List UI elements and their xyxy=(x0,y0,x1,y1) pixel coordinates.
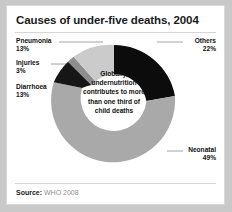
center-line-4: than one third of xyxy=(88,98,140,105)
source-label: Source: xyxy=(16,189,42,196)
label-diarrhoea-name: Diarrhoea xyxy=(16,83,47,90)
label-diarrhoea: Diarrhoea 13% xyxy=(16,83,47,100)
label-injuries: Injuries 3% xyxy=(16,59,39,76)
label-injuries-pct: 3% xyxy=(16,67,39,75)
label-neonatal: Neonatal 49% xyxy=(188,146,216,163)
label-neonatal-name: Neonatal xyxy=(188,146,216,153)
center-line-5: child deaths xyxy=(95,107,133,114)
label-injuries-name: Injuries xyxy=(16,59,39,66)
label-others-pct: 22% xyxy=(195,45,216,53)
label-diarrhoea-pct: 13% xyxy=(16,91,47,99)
label-pneumonia: Pneumonia 13% xyxy=(16,37,52,54)
label-neonatal-pct: 49% xyxy=(188,154,216,162)
source-value: WHO 2008 xyxy=(44,189,79,196)
center-line-2: undernutrition xyxy=(91,79,136,86)
center-line-3: contributes to more xyxy=(83,88,145,95)
label-others-name: Others xyxy=(195,37,216,44)
source-note: Source: WHO 2008 xyxy=(16,189,79,196)
label-pneumonia-name: Pneumonia xyxy=(16,37,52,44)
center-annotation: Globally, undernutrition contributes to … xyxy=(74,69,154,115)
label-pneumonia-pct: 13% xyxy=(16,45,52,53)
donut-chart: Globally, undernutrition contributes to … xyxy=(7,6,225,205)
label-others: Others 22% xyxy=(195,37,216,54)
center-line-1: Globally, xyxy=(100,70,127,77)
chart-card: Causes of under-five deaths, 2004 xyxy=(6,5,225,205)
source-divider xyxy=(15,183,216,184)
